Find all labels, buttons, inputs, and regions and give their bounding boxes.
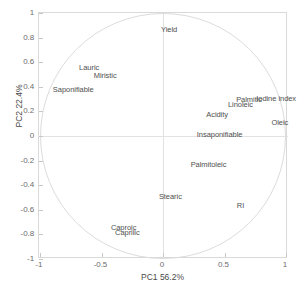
x-axis-title: PC1 56.2% <box>38 272 287 282</box>
x-tick-mark <box>286 253 287 257</box>
variable-label: Yield <box>161 24 177 33</box>
y-tick-label: 0.4 <box>34 81 45 90</box>
y-tick-label-text: 0.2 <box>23 106 34 115</box>
variable-label: Oleic <box>271 118 288 127</box>
variable-label: Miristic <box>94 70 117 79</box>
x-tick-mark <box>102 253 103 257</box>
y-tick-label: 0.6 <box>34 57 45 66</box>
y-tick-label: 0.2 <box>34 106 45 115</box>
variable-label: Linoleic <box>228 100 253 109</box>
y-tick-label: -1 <box>34 254 41 263</box>
x-tick-mark <box>225 253 226 257</box>
y-tick-label: 1 <box>34 8 38 17</box>
y-tick-label-text: 1 <box>30 8 34 17</box>
y-tick-label-text: -0.6 <box>21 204 34 213</box>
variable-label: Insaponifiable <box>197 129 243 138</box>
y-tick-label: -0.2 <box>34 155 47 164</box>
y-tick-label-text: 0.4 <box>23 81 34 90</box>
y-tick-label-text: -0.8 <box>21 229 34 238</box>
y-tick-label-text: -1 <box>27 254 34 263</box>
y-tick-label-text: -0.4 <box>21 180 34 189</box>
variable-label: Saponifiable <box>53 85 94 94</box>
pca-loadings-figure: YieldLauricMiristicSaponifiableIodine in… <box>0 0 305 293</box>
y-tick-label-text: 0.8 <box>23 32 34 41</box>
variable-label: Caprilic <box>115 227 140 236</box>
y-tick-label: -0.8 <box>34 229 47 238</box>
y-tick-label: 0 <box>34 131 38 140</box>
x-tick-mark <box>163 253 164 257</box>
x-tick-label: 1 <box>283 260 287 269</box>
y-tick-label-text: 0 <box>30 131 34 140</box>
variable-label: Stearic <box>159 192 182 201</box>
variable-label: Acidity <box>206 109 228 118</box>
x-tick-label: 0.5 <box>218 260 229 269</box>
variable-label: Iodine index <box>256 93 296 102</box>
y-tick-label-text: 0.6 <box>23 57 34 66</box>
plot-area: YieldLauricMiristicSaponifiableIodine in… <box>38 12 287 258</box>
y-axis-title: PC2 22.4% <box>14 46 24 166</box>
y-tick-label: 0.8 <box>34 32 45 41</box>
variable-label: RI <box>237 200 244 209</box>
y-tick-mark <box>39 136 43 137</box>
x-tick-label: 0 <box>160 260 164 269</box>
y-tick-label: -0.4 <box>34 180 47 189</box>
x-tick-label: -0.5 <box>94 260 107 269</box>
unit-correlation-circle <box>40 13 286 259</box>
variable-label: Palmitoleic <box>191 160 227 169</box>
y-tick-label: -0.6 <box>34 204 47 213</box>
y-tick-mark <box>39 13 43 14</box>
